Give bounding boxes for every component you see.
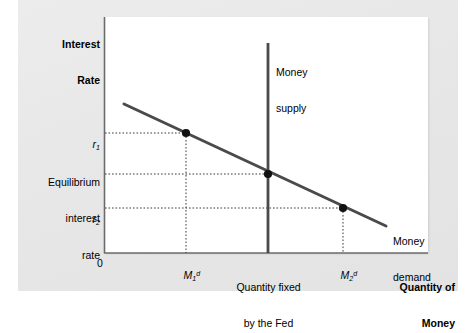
md1-base: M: [184, 269, 193, 281]
origin-label: 0: [91, 257, 109, 269]
md1-superscript: d: [196, 270, 200, 277]
x-tick-label-md2: M2d: [323, 257, 363, 295]
y-tick-label-r2: r2: [60, 201, 100, 239]
money-supply-label: Money supply: [276, 42, 346, 139]
md2-superscript: d: [353, 270, 357, 277]
point-r1: [182, 129, 190, 137]
money-demand-label: Money demand: [393, 211, 465, 308]
point-equilibrium: [264, 170, 272, 178]
y-axis-title-line1: Interest: [28, 38, 100, 50]
y-axis-title-line2: Rate: [28, 74, 100, 86]
quantity-fixed-line1: Quantity fixed: [221, 281, 316, 293]
x-axis-title-line2: Money: [373, 317, 455, 329]
money-supply-label-line2: supply: [276, 102, 346, 114]
equilibrium-line3: rate: [20, 249, 100, 261]
point-r2: [339, 204, 347, 212]
money-demand-label-line2: demand: [393, 271, 465, 283]
equilibrium-line1: Equilibrium: [20, 176, 100, 188]
x-tick-label-quantity-fixed: Quantity fixed by the Fed: [221, 257, 316, 333]
money-demand-label-line1: Money: [393, 235, 465, 247]
money-supply-label-line1: Money: [276, 66, 346, 78]
y-axis-title: Interest Rate: [28, 14, 100, 111]
r1-subscript: 1: [96, 144, 100, 151]
x-tick-label-md1: M1d: [166, 257, 206, 295]
md2-base: M: [341, 269, 350, 281]
quantity-fixed-line2: by the Fed: [221, 317, 316, 329]
r2-subscript: 2: [96, 219, 100, 226]
